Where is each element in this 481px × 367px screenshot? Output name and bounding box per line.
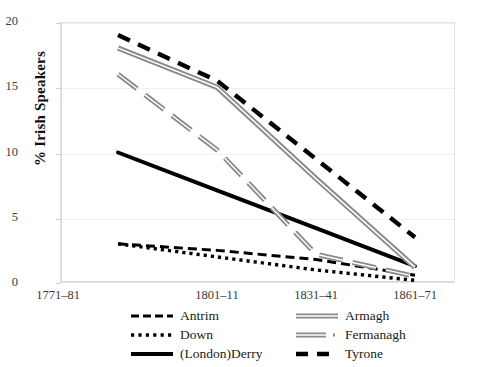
x-tick-label-4: 1861–71 bbox=[360, 288, 470, 303]
armagh-solid-swatch bbox=[295, 310, 339, 322]
legend-item-tyrone[interactable]: Tyrone bbox=[295, 346, 430, 362]
derry-solid-swatch bbox=[130, 348, 174, 360]
y-tick-label-10: 10 bbox=[0, 145, 18, 160]
series-line-armagh bbox=[118, 48, 415, 267]
fermanagh-dash-swatch bbox=[295, 329, 339, 341]
antrim-dash-swatch bbox=[130, 310, 174, 322]
legend-label-fermanagh: Fermanagh bbox=[345, 327, 406, 343]
y-axis-title: % Irish Speakers bbox=[32, 9, 49, 209]
y-tick-label-5: 5 bbox=[0, 210, 18, 225]
x-tick-label-2: 1801–11 bbox=[162, 288, 272, 303]
y-tick-label-20: 20 bbox=[0, 14, 18, 29]
chart-legend: Antrim Armagh Down Fermanagh bbox=[130, 306, 430, 364]
legend-item-antrim[interactable]: Antrim bbox=[130, 308, 295, 324]
y-tick-label-15: 15 bbox=[0, 79, 18, 94]
chart-figure: % Irish Speakers 0 5 10 15 20 1771–81 18… bbox=[0, 0, 481, 367]
down-dot-swatch bbox=[130, 329, 174, 341]
x-tick-label-1: 1771–81 bbox=[3, 288, 113, 303]
legend-label-armagh: Armagh bbox=[345, 308, 389, 324]
legend-item-armagh[interactable]: Armagh bbox=[295, 308, 430, 324]
legend-item-down[interactable]: Down bbox=[130, 327, 295, 343]
x-tick-label-3: 1831–41 bbox=[261, 288, 371, 303]
legend-label-derry: (London)Derry bbox=[180, 346, 262, 362]
y-tickmark-0 bbox=[56, 283, 61, 284]
legend-item-fermanagh[interactable]: Fermanagh bbox=[295, 327, 430, 343]
legend-label-down: Down bbox=[180, 327, 213, 343]
legend-item-derry[interactable]: (London)Derry bbox=[130, 346, 295, 362]
legend-label-antrim: Antrim bbox=[180, 308, 219, 324]
series-lines-layer bbox=[60, 22, 455, 283]
tyrone-dash-swatch bbox=[295, 348, 339, 360]
legend-label-tyrone: Tyrone bbox=[345, 346, 383, 362]
